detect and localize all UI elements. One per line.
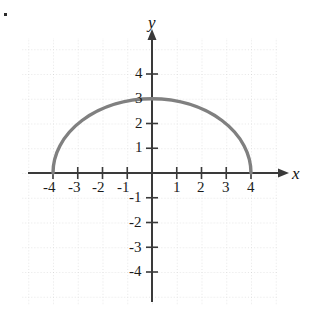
y-tick-label-1: 1 [135, 140, 143, 155]
y-tick-label-4: 4 [135, 66, 143, 81]
y-tick-label-2: 2 [135, 116, 143, 131]
y-tick-label-3: 3 [135, 91, 143, 106]
y-tick-label--1: -1 [129, 190, 142, 205]
coordinate-plane [0, 0, 309, 319]
x-tick-label--2: -2 [92, 180, 105, 195]
x-axis-arrowhead [278, 169, 289, 178]
x-axis-label: x [292, 165, 300, 182]
x-tick-label-3: 3 [222, 180, 230, 195]
x-tick-label--4: -4 [43, 180, 56, 195]
x-tick-label-1: 1 [173, 180, 181, 195]
x-tick-label--1: -1 [117, 180, 130, 195]
y-tick-label--4: -4 [129, 264, 142, 279]
x-tick-label-2: 2 [197, 180, 205, 195]
graph-figure: -4 -3 -2 -1 1 2 3 4 4 3 2 1 -1 -2 -3 -4 … [0, 0, 309, 319]
y-tick-label--3: -3 [129, 240, 142, 255]
y-axis-label: y [148, 14, 156, 31]
y-tick-label--2: -2 [129, 215, 142, 230]
x-tick-label--3: -3 [68, 180, 81, 195]
grid-area [22, 38, 277, 305]
x-tick-label-4: 4 [247, 180, 255, 195]
